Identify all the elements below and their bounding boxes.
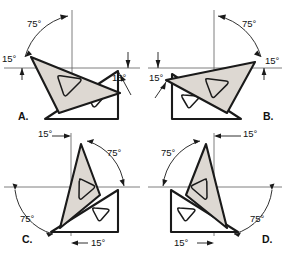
panel-d-angle-75-right-label: 75° <box>250 213 265 224</box>
panel-c-angle-15-bottom-arrow <box>71 241 78 246</box>
panel-c: 15° 75° 75° 15° C. <box>4 128 140 248</box>
panel-d-letter: D. <box>262 233 273 245</box>
panel-c-angle-75-left-label: 75° <box>20 213 35 224</box>
panel-a: 75° 15° 15° A. <box>2 10 140 122</box>
panel-b-angle-15-left-arrow <box>156 60 161 68</box>
panel-d-angle-15-top-label: 15° <box>243 128 258 139</box>
panel-b-angle-15-right-arrow <box>262 68 267 75</box>
panel-d-angle-15-top-arrow <box>214 134 221 139</box>
panel-a-angle-15-left-arrow <box>20 68 25 75</box>
panel-d-angle-15-bottom-arrow <box>207 241 214 246</box>
panel-a-angle-75-label: 75° <box>27 18 42 29</box>
panel-d-angle-75-left-arrow-2 <box>163 179 168 186</box>
panel-a-angle-75-arrow <box>60 15 68 21</box>
panel-c-angle-75-left-arc <box>15 190 53 234</box>
panel-b: 75° 15° 15° B. <box>148 10 282 122</box>
panel-b-letter: B. <box>263 110 274 122</box>
figure-canvas: 75° 15° 15° A. 75° <box>0 0 286 257</box>
drafting-triangle-figure: 75° 15° 15° A. 75° <box>0 0 286 257</box>
panel-a-angle-15-right-arrow <box>126 60 131 68</box>
panel-b-angle-75-label: 75° <box>242 18 257 29</box>
panel-a-angle-15-right-label: 15° <box>112 72 127 83</box>
panel-c-angle-75-right-label: 75° <box>107 147 122 158</box>
panel-c-angle-75-right-arrow-2 <box>120 179 125 186</box>
panel-b-angle-15-right-label: 15° <box>265 55 280 66</box>
panel-a-letter: A. <box>18 110 29 122</box>
panel-a-angle-15-left-label: 15° <box>2 53 17 64</box>
panel-c-angle-15-top-arrow <box>64 134 71 139</box>
panel-b-angle-75-arrow <box>218 15 226 21</box>
panel-b-angle-15-left-leader-arrow <box>160 83 166 90</box>
panel-c-angle-15-bottom-label: 15° <box>91 237 106 248</box>
panel-d-angle-75-left-label: 75° <box>161 147 176 158</box>
panel-d-angle-75-right-arc <box>234 190 272 234</box>
panel-d: 15° 75° 75° 15° D. <box>148 128 282 248</box>
panel-c-angle-15-top-label: 15° <box>38 128 53 139</box>
panel-b-angle-15-left-label: 15° <box>149 72 164 83</box>
panel-c-letter: C. <box>22 233 33 245</box>
panel-d-angle-15-bottom-label: 15° <box>174 237 189 248</box>
